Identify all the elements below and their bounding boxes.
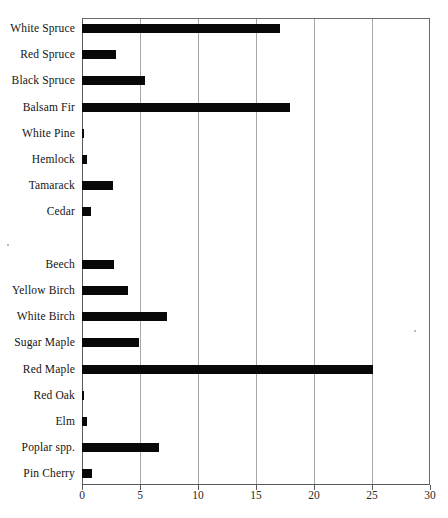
bar-row: White Pine (0, 124, 448, 142)
bar (82, 443, 159, 452)
bar (82, 207, 91, 216)
bar-category-label: Yellow Birch (0, 281, 75, 299)
bar (82, 181, 113, 190)
bar-row: Black Spruce (0, 71, 448, 89)
bar-category-label: Beech (0, 255, 75, 273)
bar (82, 155, 87, 164)
bar-category-label: Red Maple (0, 360, 75, 378)
bar-row: Poplar spp. (0, 438, 448, 456)
bar (82, 312, 167, 321)
bar-category-label: Cedar (0, 202, 75, 220)
bar-category-label: Hemlock (0, 150, 75, 168)
bar-category-label: Black Spruce (0, 71, 75, 89)
bar (82, 338, 139, 347)
x-axis-tick-label: 5 (120, 489, 160, 501)
bar (82, 50, 116, 59)
x-axis-tick-label: 30 (410, 489, 448, 501)
bar-category-label: White Pine (0, 124, 75, 142)
bar-chart: White SpruceRed SpruceBlack SpruceBalsam… (0, 0, 448, 518)
bar-category-label: Sugar Maple (0, 333, 75, 351)
bar (82, 469, 92, 478)
bar-category-label: Poplar spp. (0, 438, 75, 456)
bar (82, 365, 373, 374)
x-axis-tick-label: 25 (352, 489, 392, 501)
bar-row: Cedar (0, 202, 448, 220)
bar (82, 286, 128, 295)
bar-rows: White SpruceRed SpruceBlack SpruceBalsam… (0, 0, 448, 518)
bar-row: Balsam Fir (0, 98, 448, 116)
bar-category-label: Red Oak (0, 386, 75, 404)
bar-row: White Spruce (0, 19, 448, 37)
x-axis-tick-label: 15 (236, 489, 276, 501)
bar (82, 391, 84, 400)
bar-row: Pin Cherry (0, 464, 448, 482)
bar-row: Red Maple (0, 360, 448, 378)
bar (82, 24, 280, 33)
bar (82, 76, 145, 85)
bar-category-label: White Birch (0, 307, 75, 325)
bar-category-label: Elm (0, 412, 75, 430)
bar-category-label: Red Spruce (0, 45, 75, 63)
bar-row: Yellow Birch (0, 281, 448, 299)
speck-right (414, 330, 416, 332)
bar-row: White Birch (0, 307, 448, 325)
bar (82, 260, 114, 269)
x-axis-tick-label: 0 (62, 489, 102, 501)
bar-category-label: Pin Cherry (0, 464, 75, 482)
bar (82, 417, 87, 426)
bar-row: Elm (0, 412, 448, 430)
bar (82, 129, 84, 138)
bar-row: Hemlock (0, 150, 448, 168)
x-axis-tick-label: 20 (294, 489, 334, 501)
bar-row: Red Spruce (0, 45, 448, 63)
bar-row: Red Oak (0, 386, 448, 404)
speck-left (7, 244, 9, 246)
bar-category-label: Tamarack (0, 176, 75, 194)
x-axis-tick-label: 10 (178, 489, 218, 501)
bar-row: Sugar Maple (0, 333, 448, 351)
bar-category-label: Balsam Fir (0, 98, 75, 116)
bar-row: Beech (0, 255, 448, 273)
bar-category-label: White Spruce (0, 19, 75, 37)
bar-row: Tamarack (0, 176, 448, 194)
bar (82, 103, 290, 112)
